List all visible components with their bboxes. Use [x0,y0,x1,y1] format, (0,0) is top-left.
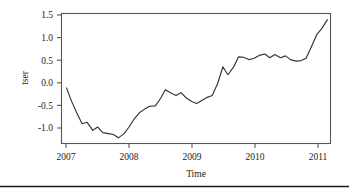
y-tick-label: 1.5 [41,10,53,20]
x-tick-label: 2009 [183,152,202,162]
figure-container: 1.5 1.0 0.5 0.0 -0.5 -1.0 2007 2008 2009… [0,0,349,194]
x-tick-label: 2010 [246,152,265,162]
x-axis-ticks [66,144,318,149]
line-chart: 1.5 1.0 0.5 0.0 -0.5 -1.0 2007 2008 2009… [0,0,349,194]
x-tick-label: 2007 [57,152,76,162]
x-axis-title: Time [186,169,206,179]
y-tick-label: -0.5 [38,101,53,111]
x-axis-tick-labels: 2007 2008 2009 2010 2011 [57,152,328,162]
y-axis-title: tser [20,70,30,85]
y-tick-label: 1.0 [41,33,53,43]
y-tick-label: 0.0 [41,78,53,88]
plot-frame [62,14,331,144]
y-axis-tick-labels: 1.5 1.0 0.5 0.0 -0.5 -1.0 [38,10,53,133]
series-line-tser [67,20,328,138]
y-tick-label: -1.0 [38,123,53,133]
y-axis-ticks [57,15,62,128]
y-tick-label: 0.5 [41,56,53,66]
x-tick-label: 2008 [120,152,139,162]
x-tick-label: 2011 [309,152,328,162]
